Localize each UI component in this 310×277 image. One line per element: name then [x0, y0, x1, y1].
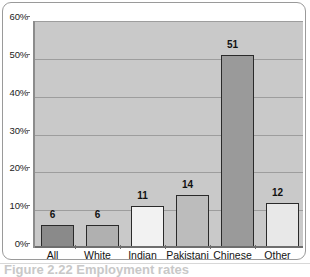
gridline [35, 210, 303, 211]
bar-value-label: 6 [78, 209, 118, 220]
figure-container: Figure 2.22 Employment rates 0%10%20%30%… [0, 0, 310, 277]
bar-value-label: 6 [33, 209, 73, 220]
y-axis-tick-mark [26, 54, 30, 55]
y-axis-tick-label: 40% [0, 86, 28, 97]
y-axis-tick-label: 60% [0, 11, 28, 22]
bar-value-label: 12 [258, 187, 298, 198]
x-axis-tick-mark [165, 245, 166, 249]
y-axis-tick-label: 0% [0, 238, 28, 249]
y-axis-tick-mark [26, 130, 30, 131]
chart-card [2, 2, 306, 260]
y-axis-tick-mark [26, 243, 30, 244]
bar-pakistani [176, 195, 209, 248]
y-axis-tick-label: 50% [0, 48, 28, 59]
plot-inner [35, 21, 303, 248]
bar-white [86, 225, 119, 248]
figure-caption-strip: Figure 2.22 Employment rates [0, 265, 310, 277]
y-axis-tick-mark [26, 92, 30, 93]
y-axis-tick-label: 10% [0, 200, 28, 211]
x-axis-tick-mark [120, 245, 121, 249]
bar-indian [131, 206, 164, 248]
x-axis-label-other: Other [248, 249, 308, 261]
bar-chinese [221, 55, 254, 248]
x-axis-tick-mark [210, 245, 211, 249]
x-axis-tick-mark [255, 245, 256, 249]
gridline [35, 135, 303, 136]
x-axis-tick-mark [75, 245, 76, 249]
plot-area [33, 21, 303, 248]
bar-other [266, 203, 299, 248]
y-axis-tick-mark [26, 16, 30, 17]
y-axis-tick-mark [26, 167, 30, 168]
bar-value-label: 14 [168, 179, 208, 190]
bar-all [41, 225, 74, 248]
caption-divider [0, 263, 310, 264]
y-axis-tick-mark [26, 205, 30, 206]
bar-value-label: 11 [123, 190, 163, 201]
gridline [35, 97, 303, 98]
gridline [35, 59, 303, 60]
figure-caption: Figure 2.22 Employment rates [4, 265, 189, 277]
gridline [35, 21, 303, 22]
y-axis-tick-label: 20% [0, 162, 28, 173]
y-axis-tick-label: 30% [0, 124, 28, 135]
bar-value-label: 51 [213, 39, 253, 50]
gridline [35, 172, 303, 173]
